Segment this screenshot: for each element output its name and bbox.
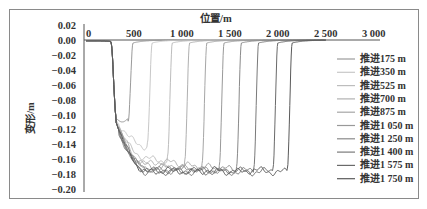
y-tick-label: −0.04 [52, 65, 77, 76]
legend-label: 推进350 m [360, 65, 407, 77]
legend-label: 推进1 750 m [360, 172, 414, 184]
legend-label: 推进525 m [360, 79, 407, 91]
x-tick-label: 500 [126, 28, 142, 39]
x-axis-title: 位置/m [200, 12, 232, 24]
y-tick-label: −0.06 [52, 80, 76, 91]
legend-label: 推进875 m [360, 105, 407, 117]
x-tick-label: 1 000 [170, 28, 194, 39]
x-tick-label: 1 500 [218, 28, 242, 39]
y-tick-label: −0.18 [52, 169, 76, 180]
y-tick-label: −0.20 [52, 184, 76, 195]
y-tick-label: −0.14 [52, 139, 77, 150]
legend-label: 推进1 050 m [360, 119, 414, 131]
y-axis-title: 变形/m [24, 102, 36, 134]
x-tick-label: 3 000 [362, 28, 386, 39]
legend-label: 推进175 m [360, 52, 407, 64]
legend-label: 推进1 400 m [360, 145, 414, 157]
x-tick-label: 2 000 [266, 28, 290, 39]
y-tick-label: −0.08 [52, 95, 76, 106]
y-tick-label: −0.02 [52, 50, 76, 61]
y-tick-label: −0.16 [52, 154, 76, 165]
x-axis-ticks: 05001 0001 5002 0002 5003 000 [86, 28, 386, 39]
y-tick-label: 0.00 [58, 35, 76, 46]
legend-label: 推进1 250 m [360, 132, 414, 144]
y-axis-ticks: 0.020.00−0.02−0.04−0.06−0.08−0.10−0.12−0… [52, 20, 77, 195]
x-tick-label: 0 [86, 28, 91, 39]
series-lines [86, 40, 326, 176]
x-tick-label: 2 500 [314, 28, 338, 39]
line-chart: 0.020.00−0.02−0.04−0.06−0.08−0.10−0.12−0… [0, 0, 427, 209]
legend-label: 推进700 m [360, 92, 407, 104]
legend-label: 推进1 575 m [360, 158, 414, 170]
legend: 推进175 m推进350 m推进525 m推进700 m推进875 m推进1 0… [337, 52, 414, 184]
y-tick-label: 0.02 [58, 20, 76, 31]
y-tick-label: −0.12 [52, 124, 76, 135]
y-tick-label: −0.10 [52, 110, 76, 121]
